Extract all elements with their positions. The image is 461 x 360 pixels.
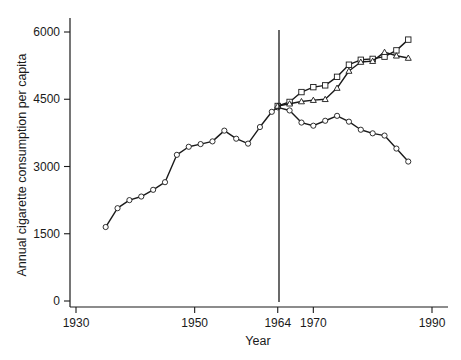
- x-tick-label: 1930: [63, 316, 90, 330]
- y-axis-ticks: 01500300045006000: [33, 25, 70, 308]
- circle-marker: [370, 131, 375, 136]
- circle-marker: [394, 146, 399, 151]
- plot-series: [103, 37, 411, 230]
- circle-marker: [115, 206, 120, 211]
- axes: [70, 18, 448, 307]
- series-line: [278, 40, 409, 106]
- x-tick-label: 1964: [264, 316, 291, 330]
- circle-marker: [174, 152, 179, 157]
- y-tick-label: 3000: [33, 160, 60, 174]
- y-tick-label: 1500: [33, 227, 60, 241]
- circle-marker: [234, 136, 239, 141]
- circle-marker: [210, 139, 215, 144]
- chart-canvas: 01500300045006000 19301950196419701990 Y…: [0, 0, 461, 360]
- circle-marker: [151, 187, 156, 192]
- circle-marker: [186, 144, 191, 149]
- circle-marker: [257, 124, 262, 129]
- square-marker: [311, 84, 316, 89]
- circle-marker: [382, 133, 387, 138]
- square-marker: [346, 62, 351, 67]
- circle-marker: [103, 224, 108, 229]
- y-tick-label: 4500: [33, 92, 60, 106]
- series-line: [278, 52, 409, 106]
- x-tick-label: 1970: [300, 316, 327, 330]
- circle-marker: [334, 113, 339, 118]
- square-marker: [334, 74, 339, 79]
- circle-marker: [139, 194, 144, 199]
- square-marker: [323, 83, 328, 88]
- circle-marker: [358, 127, 363, 132]
- y-axis-title: Annual cigarette consumption per capita: [15, 53, 29, 276]
- circle-marker: [299, 120, 304, 125]
- circle-marker: [222, 128, 227, 133]
- circle-marker: [198, 141, 203, 146]
- circle-marker: [162, 180, 167, 185]
- series-line: [106, 107, 409, 227]
- square-marker: [299, 89, 304, 94]
- y-tick-label: 0: [53, 294, 60, 308]
- square-marker: [406, 37, 411, 42]
- x-tick-label: 1990: [419, 316, 446, 330]
- circle-marker: [323, 118, 328, 123]
- circle-marker: [269, 109, 274, 114]
- circle-marker: [346, 119, 351, 124]
- x-tick-label: 1950: [181, 316, 208, 330]
- circle-marker: [311, 123, 316, 128]
- x-axis-title: Year: [245, 334, 270, 348]
- circle-marker: [406, 159, 411, 164]
- circle-marker: [245, 141, 250, 146]
- circle-marker: [287, 108, 292, 113]
- x-axis-ticks: 19301950196419701990: [63, 307, 446, 330]
- triangle-marker: [382, 49, 388, 54]
- circle-marker: [127, 198, 132, 203]
- y-tick-label: 6000: [33, 25, 60, 39]
